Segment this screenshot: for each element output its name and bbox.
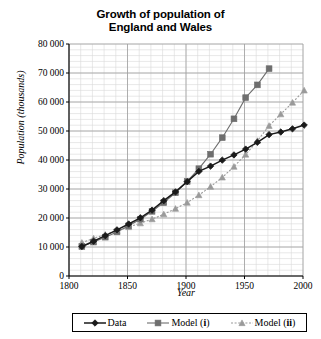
square-marker [156, 320, 162, 326]
y-tick-label: 0 [59, 271, 64, 281]
legend-marker-square-marker [147, 318, 169, 328]
legend-item: Model (ii) [231, 317, 296, 328]
y-tick-labels: 010 00020 00030 00040 00050 00060 00070 … [38, 39, 64, 281]
square-marker [219, 135, 225, 141]
y-tick-label: 40 000 [38, 155, 64, 165]
triangle-marker [149, 216, 155, 222]
square-marker [208, 151, 214, 157]
chart-legend: DataModel (i)Model (ii) [72, 313, 307, 332]
y-tick-label: 10 000 [38, 242, 64, 252]
series-line [82, 90, 304, 242]
diamond-marker [207, 163, 213, 169]
axis-ticks [66, 44, 303, 279]
y-axis-label: Population (thousands) [15, 38, 26, 198]
diamond-marker [91, 319, 97, 325]
y-tick-label: 70 000 [38, 68, 64, 78]
diamond-marker [278, 129, 284, 135]
triangle-marker [231, 164, 237, 170]
y-tick-label: 30 000 [38, 184, 64, 194]
legend-label: Model (ii) [253, 317, 296, 328]
legend-marker-diamond-marker [84, 318, 106, 328]
square-marker [254, 82, 260, 88]
series-model-ii [79, 87, 308, 245]
square-marker [243, 95, 249, 101]
y-tick-label: 20 000 [38, 213, 64, 223]
legend-label: Data [106, 317, 127, 328]
series-data [79, 122, 308, 250]
legend-item: Data [84, 317, 127, 328]
chart-root: Growth of population of England and Wale… [0, 0, 321, 339]
y-tick-label: 80 000 [38, 39, 64, 49]
legend-marker-triangle-marker [231, 318, 253, 328]
diamond-marker [301, 122, 307, 128]
legend-item: Model (i) [147, 317, 209, 328]
triangle-marker [266, 123, 272, 129]
data-series-layer [79, 66, 308, 250]
square-marker [266, 66, 272, 72]
plot-area: 010 00020 00030 00040 00050 00060 00070 … [0, 0, 321, 300]
series-line [82, 69, 269, 247]
y-tick-label: 60 000 [38, 97, 64, 107]
square-marker [231, 116, 237, 122]
diamond-marker [231, 152, 237, 158]
diamond-marker [219, 157, 225, 163]
chart-svg: 010 00020 00030 00040 00050 00060 00070 … [0, 0, 321, 300]
y-tick-label: 50 000 [38, 126, 64, 136]
legend-label: Model (i) [169, 317, 209, 328]
x-axis-label: Year [69, 287, 303, 298]
